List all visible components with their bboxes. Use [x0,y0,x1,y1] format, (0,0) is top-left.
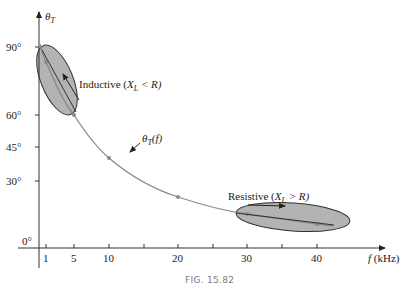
y-tick-45: 45° [6,141,21,153]
y-tick-60: 60° [6,109,21,121]
x-tick-10: 10 [103,252,115,264]
inductive-label: Inductive (XL < R) [79,78,162,93]
y-axis-title: θT [45,10,55,25]
y-tick-30: 30° [6,175,21,187]
x-tick-5: 5 [71,252,77,264]
x-axis-title: f (kHz) [368,252,400,265]
y-tick-90: 90° [6,41,21,53]
x-tick-20: 20 [172,252,184,264]
x-tick-30: 30 [241,252,253,264]
x-tick-40: 40 [311,252,323,264]
inductive-region [28,40,85,121]
x-ticks [46,244,317,248]
figure-caption: FIG. 15.82 [185,275,234,285]
x-tick-1: 1 [43,252,49,264]
chart: 90° 60° 45° 30° 0° 1 5 10 20 30 40 θT f … [0,0,414,288]
y-tick-0: 0° [22,235,32,247]
curve-label: θT(f) [142,132,163,147]
curve-label-arrow [130,143,140,152]
resistive-region [235,199,351,235]
